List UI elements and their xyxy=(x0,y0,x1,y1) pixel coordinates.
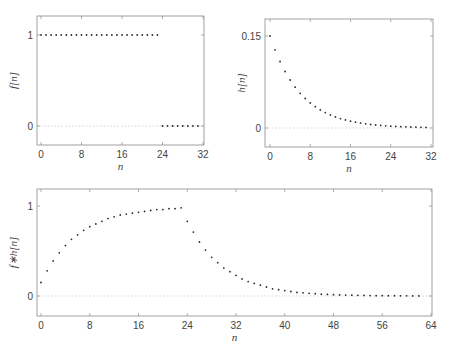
data-point xyxy=(119,214,121,216)
data-point xyxy=(58,252,60,254)
data-point xyxy=(363,295,365,297)
data-point xyxy=(81,34,83,36)
x-tick-label: 0 xyxy=(38,149,44,160)
data-point xyxy=(186,220,188,222)
data-point xyxy=(266,286,268,288)
data-point xyxy=(180,207,182,209)
data-point xyxy=(40,282,42,284)
x-tick-label: 48 xyxy=(328,320,340,331)
data-points xyxy=(269,35,427,128)
y-axis-label: f∗h[n] xyxy=(7,237,19,269)
data-point xyxy=(418,295,420,297)
plot-frame xyxy=(37,189,432,316)
data-point xyxy=(272,288,274,290)
y-axis-label: h[n] xyxy=(235,73,247,93)
data-point xyxy=(131,34,133,36)
data-point xyxy=(205,249,207,251)
data-point xyxy=(415,126,417,128)
y-tick-label: 1 xyxy=(27,201,33,212)
x-tick-label: 8 xyxy=(87,320,93,331)
data-point xyxy=(304,98,306,100)
data-point xyxy=(113,216,115,218)
data-point xyxy=(168,208,170,210)
data-point xyxy=(387,295,389,297)
data-point xyxy=(83,229,85,231)
data-point xyxy=(126,34,128,36)
data-points xyxy=(40,207,420,297)
data-point xyxy=(278,289,280,291)
x-tick-label: 8 xyxy=(79,149,85,160)
data-point xyxy=(357,294,359,296)
data-point xyxy=(345,294,347,296)
x-axis-label: n xyxy=(346,162,352,174)
data-point xyxy=(269,35,271,37)
x-tick-label: 64 xyxy=(425,320,437,331)
y-tick-label: 0 xyxy=(27,291,33,302)
data-point xyxy=(107,218,109,220)
data-point xyxy=(64,245,66,247)
data-point xyxy=(314,106,316,108)
data-point xyxy=(55,34,57,36)
x-tick-label: 32 xyxy=(197,149,209,160)
data-point xyxy=(406,295,408,297)
data-point xyxy=(111,34,113,36)
data-point xyxy=(375,124,377,126)
data-point xyxy=(121,34,123,36)
x-tick-label: 16 xyxy=(116,149,128,160)
data-point xyxy=(192,125,194,127)
data-point xyxy=(327,293,329,295)
data-point xyxy=(339,294,341,296)
data-point xyxy=(412,295,414,297)
x-tick-label: 0 xyxy=(267,151,273,162)
data-point xyxy=(141,34,143,36)
data-point xyxy=(172,125,174,127)
data-point xyxy=(86,34,88,36)
data-point xyxy=(294,86,296,88)
data-point xyxy=(302,292,304,294)
data-point xyxy=(324,112,326,114)
y-tick-label: 0 xyxy=(255,123,261,134)
data-point xyxy=(52,260,54,262)
y-tick-label: 0.15 xyxy=(242,31,262,42)
data-point xyxy=(157,34,159,36)
data-point xyxy=(45,34,47,36)
data-point xyxy=(71,238,73,240)
data-point xyxy=(385,125,387,127)
data-point xyxy=(116,34,118,36)
data-point xyxy=(101,220,103,222)
data-point xyxy=(106,34,108,36)
data-point xyxy=(177,125,179,127)
data-point xyxy=(199,241,201,243)
data-point xyxy=(65,34,67,36)
data-point xyxy=(380,125,382,127)
data-point xyxy=(151,34,153,36)
x-tick-label: 24 xyxy=(385,151,397,162)
x-tick-label: 32 xyxy=(425,151,437,162)
data-point xyxy=(253,283,255,285)
figure: 0816243201nf[n] 0816243200.15nh[n] 08162… xyxy=(0,0,452,349)
data-point xyxy=(340,118,342,120)
data-points xyxy=(40,34,199,127)
data-point xyxy=(314,293,316,295)
data-point xyxy=(284,290,286,292)
data-point xyxy=(333,294,335,296)
data-point xyxy=(394,295,396,297)
data-point xyxy=(284,71,286,73)
x-tick-label: 56 xyxy=(377,320,389,331)
data-point xyxy=(390,125,392,127)
data-point xyxy=(369,295,371,297)
data-point xyxy=(274,49,276,51)
data-point xyxy=(241,278,243,280)
data-point xyxy=(89,226,91,228)
x-axis-label: n xyxy=(118,160,124,172)
y-tick-label: 1 xyxy=(27,30,33,41)
data-point xyxy=(299,92,301,94)
chart-h-panel: 0816243200.15nh[n] xyxy=(235,19,437,174)
y-axis-label: f[n] xyxy=(7,72,19,89)
x-tick-label: 32 xyxy=(230,320,242,331)
data-point xyxy=(223,267,225,269)
data-point xyxy=(319,109,321,111)
data-point xyxy=(296,292,298,294)
data-point xyxy=(182,125,184,127)
data-point xyxy=(174,208,176,210)
